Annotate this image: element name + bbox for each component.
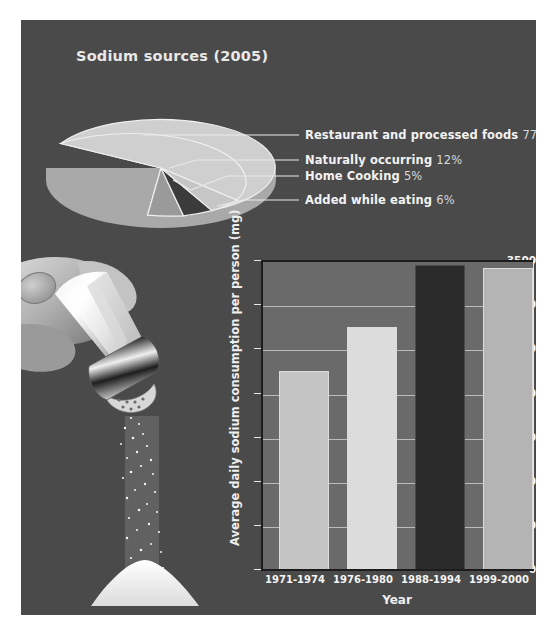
salt-shaker-photo xyxy=(21,248,216,615)
x-tick-1999-2000: 1999-2000 xyxy=(449,574,536,585)
bar-1971-1974 xyxy=(279,371,329,570)
bar-1988-1994 xyxy=(415,265,465,570)
bar-1999-2000 xyxy=(483,268,533,570)
tickmark-3000 xyxy=(254,304,261,305)
bar-chart-plot-area xyxy=(261,260,533,570)
salt-pile xyxy=(91,560,199,606)
pie-label-text-3: Added while eating xyxy=(305,193,432,207)
pie-label-text-2: Home Cooking xyxy=(305,169,400,183)
pie-label-text-0: Restaurant and processed foods xyxy=(305,128,518,142)
bar-chart-x-axis-label: Year xyxy=(261,593,533,607)
pie-label-text-1: Naturally occurring xyxy=(305,153,432,167)
pie-label-added-while-eating: Added while eating 6% xyxy=(305,193,455,207)
pie-label-pct-1: 12% xyxy=(436,153,462,167)
plot-baseline-axis xyxy=(261,569,534,571)
tickmark-3500 xyxy=(254,260,261,261)
bar-chart-y-axis-label: Average daily sodium consumption per per… xyxy=(228,276,242,546)
tickmark-0 xyxy=(254,569,261,570)
figure-panel: Sodium sources (2005) xyxy=(21,20,536,615)
pie-label-naturally-occurring: Naturally occurring 12% xyxy=(305,153,462,167)
tickmark-2500 xyxy=(254,348,261,349)
pie-label-pct-2: 5% xyxy=(404,169,422,183)
plot-right-edge xyxy=(533,260,534,570)
tickmark-1000 xyxy=(254,481,261,482)
tickmark-2000 xyxy=(254,393,261,394)
pie-chart-section: Sodium sources (2005) xyxy=(21,20,536,250)
salt-stream xyxy=(120,416,164,582)
pie-label-pct-3: 6% xyxy=(436,193,454,207)
bar-chart-section: Average daily sodium consumption per per… xyxy=(196,256,536,615)
pie-label-restaurant-processed-foods: Restaurant and processed foods 77% xyxy=(305,128,536,142)
pie-label-home-cooking: Home Cooking 5% xyxy=(305,169,422,183)
tickmark-500 xyxy=(254,525,261,526)
pie-label-pct-0: 77% xyxy=(522,128,536,142)
tickmark-1500 xyxy=(254,437,261,438)
bar-1976-1980 xyxy=(347,327,397,570)
